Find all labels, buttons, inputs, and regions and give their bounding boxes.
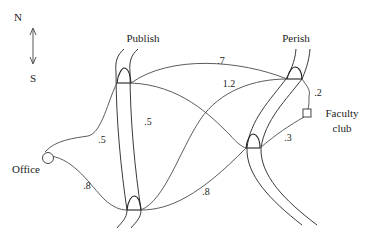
map-diagram: N S Publish Perish [0, 0, 370, 239]
compass-south-label: S [30, 72, 36, 84]
faculty-club-node: Faculty club [303, 107, 359, 134]
river-perish: Perish [247, 32, 317, 225]
edge-weights: .5 .5 .7 1.2 .2 .3 .8 .8 [83, 55, 322, 197]
compass: N S [14, 11, 36, 84]
weight-publish-bottom-perish-lower: .8 [202, 186, 210, 197]
office-circle-icon [43, 153, 54, 164]
river-publish-label: Publish [126, 32, 160, 44]
compass-north-label: N [14, 11, 22, 23]
weight-perish-lower-faculty: .3 [284, 132, 292, 143]
faculty-club-label-line1: Faculty [326, 107, 359, 119]
weight-office-publish-bottom: .8 [83, 180, 91, 191]
bridge-perish-top [287, 67, 302, 79]
north-south-arrow-icon [30, 28, 36, 64]
weight-perish-top-faculty: .2 [314, 87, 322, 98]
faculty-club-square-icon [303, 109, 311, 117]
weight-publish-perish-top: .7 [217, 55, 225, 66]
weight-publish-bottom-perish-top: 1.2 [223, 78, 236, 89]
office-node: Office [12, 153, 53, 176]
office-label: Office [12, 163, 40, 175]
weight-office-publish-top: .5 [98, 134, 106, 145]
river-perish-label: Perish [282, 32, 310, 44]
weight-publish-perish-lower: .5 [144, 116, 152, 127]
bridge-publish-top [117, 68, 131, 83]
faculty-club-label-line2: club [333, 122, 352, 134]
